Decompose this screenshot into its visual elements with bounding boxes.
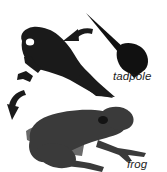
arrow2-head-shape: [7, 104, 19, 120]
froglet-eye-shape: [26, 38, 34, 45]
frog-eye-shape: [98, 116, 108, 124]
tadpole-label: tadpole: [113, 70, 151, 83]
froglet-tail-shape: [76, 70, 115, 97]
arrow-head-shape: [63, 29, 79, 41]
life-cycle-illustration: [0, 0, 167, 172]
arrow-froglet-to-frog: [7, 90, 26, 120]
frog-label: frog: [127, 158, 147, 171]
froglet-hind-leg-shape: [17, 71, 33, 82]
arrow-tadpole-to-froglet: [63, 28, 93, 41]
frog-life-cycle-figure: tadpole frog: [0, 0, 167, 172]
tadpole-illustration: [86, 13, 148, 78]
froglet-illustration: [17, 27, 115, 98]
